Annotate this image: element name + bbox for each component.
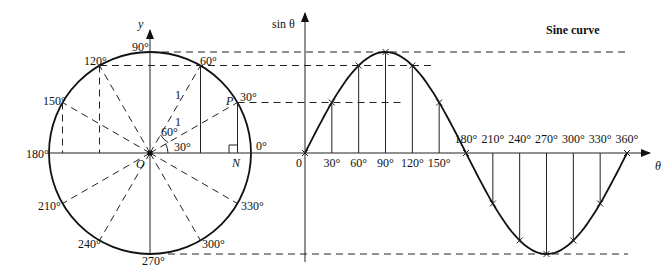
radial-300 bbox=[150, 153, 201, 240]
angle-0: 0° bbox=[256, 139, 267, 153]
sine-origin-label: 0 bbox=[296, 156, 302, 170]
angle-330: 330° bbox=[241, 199, 264, 213]
y-axis-label: y bbox=[137, 17, 144, 31]
tick-240: 240° bbox=[508, 132, 531, 146]
right-angle-mark bbox=[229, 145, 237, 153]
angle-240: 240° bbox=[78, 237, 101, 251]
angle-150: 150° bbox=[43, 94, 66, 108]
chart-title: Sine curve bbox=[546, 23, 600, 37]
tick-300: 300° bbox=[562, 132, 585, 146]
tick-210: 210° bbox=[481, 132, 504, 146]
arc-30 bbox=[166, 144, 168, 153]
angle-90: 90° bbox=[132, 40, 149, 54]
sine-x-label: θ bbox=[655, 159, 661, 173]
tick-90: 90° bbox=[377, 156, 394, 170]
sine-curve-diagram: y O P N 1 1 30° 60° 0° 30° 60° 90° 120° … bbox=[0, 0, 672, 276]
tick-60: 60° bbox=[350, 156, 367, 170]
tick-120: 120° bbox=[401, 156, 424, 170]
unit-circle: y O P N 1 1 30° 60° 0° 30° 60° 90° 120° … bbox=[26, 17, 300, 268]
angle-210: 210° bbox=[38, 199, 61, 213]
tick-270: 270° bbox=[535, 132, 558, 146]
radial-330 bbox=[150, 153, 237, 204]
radial-150 bbox=[63, 103, 150, 154]
tick-360: 360° bbox=[616, 132, 639, 146]
tick-180: 180° bbox=[455, 132, 478, 146]
angle-30: 30° bbox=[240, 90, 257, 104]
radius-label-60: 1 bbox=[175, 88, 181, 102]
inner-angle-60: 60° bbox=[161, 125, 178, 139]
origin-label: O bbox=[136, 157, 145, 171]
x-tick-labels: 30°60°90°120°150°180°210°240°270°300°330… bbox=[323, 132, 638, 170]
origin-dot bbox=[147, 150, 152, 155]
tick-150: 150° bbox=[428, 156, 451, 170]
angle-270: 270° bbox=[142, 254, 165, 268]
angle-180: 180° bbox=[26, 147, 49, 161]
tick-330: 330° bbox=[589, 132, 612, 146]
inner-angle-30: 30° bbox=[174, 140, 191, 154]
tick-30: 30° bbox=[323, 156, 340, 170]
point-p-label: P bbox=[225, 94, 234, 108]
radial-120 bbox=[100, 66, 151, 153]
point-n-label: N bbox=[231, 156, 241, 170]
sine-y-label: sin θ bbox=[272, 17, 295, 31]
angle-300: 300° bbox=[202, 237, 225, 251]
sine-graph: sin θ θ Sine curve 0 30°60°90°120°150°18… bbox=[272, 13, 661, 262]
